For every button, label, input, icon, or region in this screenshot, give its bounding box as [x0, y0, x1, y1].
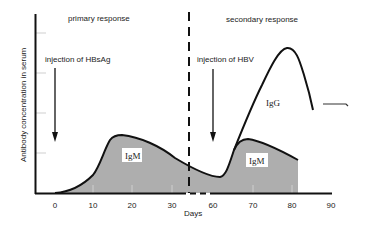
igg-label: IgG: [266, 98, 280, 108]
svg-text:30: 30: [168, 201, 177, 210]
svg-text:90: 90: [327, 201, 336, 210]
injection-hbv-label: injection of HBV: [197, 55, 255, 64]
antibody-response-chart: primary response secondary response inje…: [0, 0, 365, 228]
svg-text:60: 60: [209, 201, 218, 210]
igm-secondary-label: IgM: [249, 156, 265, 166]
y-axis-label: Antibody concentration in serum: [19, 47, 28, 162]
secondary-response-label: secondary response: [226, 15, 299, 24]
svg-text:10: 10: [89, 201, 98, 210]
svg-text:20: 20: [128, 201, 137, 210]
igm-primary-label: IgM: [125, 151, 141, 161]
primary-response-label: primary response: [68, 14, 130, 23]
x-axis-label: Days: [184, 209, 202, 218]
svg-text:80: 80: [288, 201, 297, 210]
legend-line: [323, 104, 348, 106]
arrow-hbsag-icon: [52, 68, 58, 142]
injection-hbsag-label: injection of HBsAg: [45, 55, 110, 64]
arrow-hbv-icon: [210, 69, 216, 142]
svg-text:70: 70: [249, 201, 258, 210]
svg-text:0: 0: [53, 201, 58, 210]
